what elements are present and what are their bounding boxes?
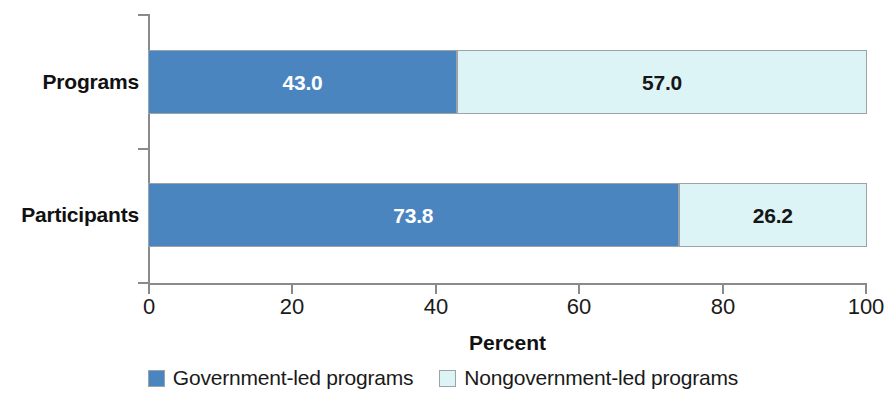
y-axis-tick-middle — [138, 148, 150, 150]
category-label-programs: Programs — [0, 70, 139, 94]
x-axis-tick — [148, 283, 150, 294]
x-axis-tick — [291, 283, 293, 294]
bar-row: 73.8 26.2 — [148, 183, 867, 247]
legend-item-nongovernment: Nongovernment-led programs — [439, 366, 738, 390]
x-axis-title: Percent — [148, 331, 867, 355]
bar-segment-government: 43.0 — [148, 50, 457, 114]
chart-legend: Government-led programs Nongovernment-le… — [0, 366, 886, 390]
stacked-bar-chart: Programs Participants 43.0 57.0 73.8 26.… — [0, 0, 886, 398]
x-axis-tick — [435, 283, 437, 294]
bar-segment-value: 57.0 — [642, 72, 682, 93]
y-axis-tick-top — [138, 14, 150, 16]
legend-swatch-icon — [148, 370, 165, 387]
legend-label: Government-led programs — [173, 366, 414, 390]
x-axis-tick-label: 80 — [711, 294, 735, 320]
category-label-participants: Participants — [0, 203, 139, 227]
x-axis-tick-label: 0 — [143, 294, 155, 320]
bar-segment-value: 26.2 — [753, 205, 793, 226]
legend-label: Nongovernment-led programs — [464, 366, 738, 390]
bar-segment-government: 73.8 — [148, 183, 679, 247]
legend-item-government: Government-led programs — [148, 366, 414, 390]
x-axis-tick-label: 20 — [280, 294, 304, 320]
legend-swatch-icon — [439, 370, 456, 387]
x-axis-tick-label: 60 — [567, 294, 591, 320]
bar-segment-value: 73.8 — [393, 205, 433, 226]
x-axis-tick-label: 40 — [424, 294, 448, 320]
bar-row: 43.0 57.0 — [148, 50, 867, 114]
bar-segment-value: 43.0 — [283, 72, 323, 93]
x-axis-tick — [578, 283, 580, 294]
x-axis-tick — [722, 283, 724, 294]
bar-segment-nongovernment: 26.2 — [679, 183, 867, 247]
x-axis-line — [148, 283, 867, 285]
bar-segment-nongovernment: 57.0 — [457, 50, 867, 114]
x-axis-tick-label: 100 — [848, 294, 885, 320]
x-axis-tick — [865, 283, 867, 294]
